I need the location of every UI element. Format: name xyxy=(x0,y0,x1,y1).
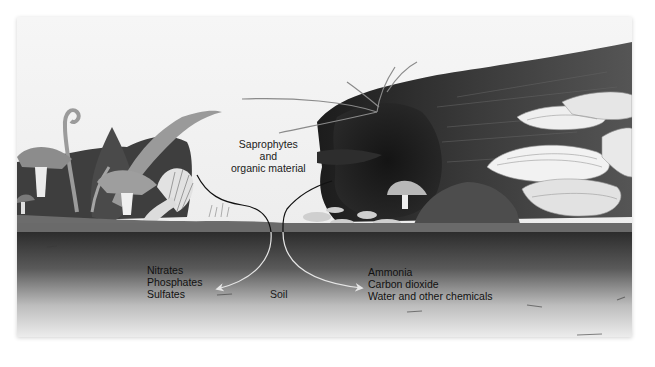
forest-floor-illustration xyxy=(17,17,632,337)
label-saprophytes: Saprophytes and organic material xyxy=(231,138,306,174)
label-nitrates: Nitrates xyxy=(147,264,202,276)
label-sulfates: Sulfates xyxy=(147,288,202,300)
label-water-other-chemicals: Water and other chemicals xyxy=(368,290,493,302)
soil-layer xyxy=(17,232,632,337)
diagram-frame: Saprophytes and organic material Nitrate… xyxy=(17,17,632,337)
label-saprophytes-line-1: Saprophytes xyxy=(231,138,306,150)
label-ammonia: Ammonia xyxy=(368,266,493,278)
label-saprophytes-line-2: and xyxy=(231,150,306,162)
label-soil: Soil xyxy=(270,288,288,300)
label-right-products: Ammonia Carbon dioxide Water and other c… xyxy=(368,266,493,302)
label-left-products: Nitrates Phosphates Sulfates xyxy=(147,264,202,300)
label-phosphates: Phosphates xyxy=(147,276,202,288)
label-saprophytes-line-3: organic material xyxy=(231,162,306,174)
label-carbon-dioxide: Carbon dioxide xyxy=(368,278,493,290)
